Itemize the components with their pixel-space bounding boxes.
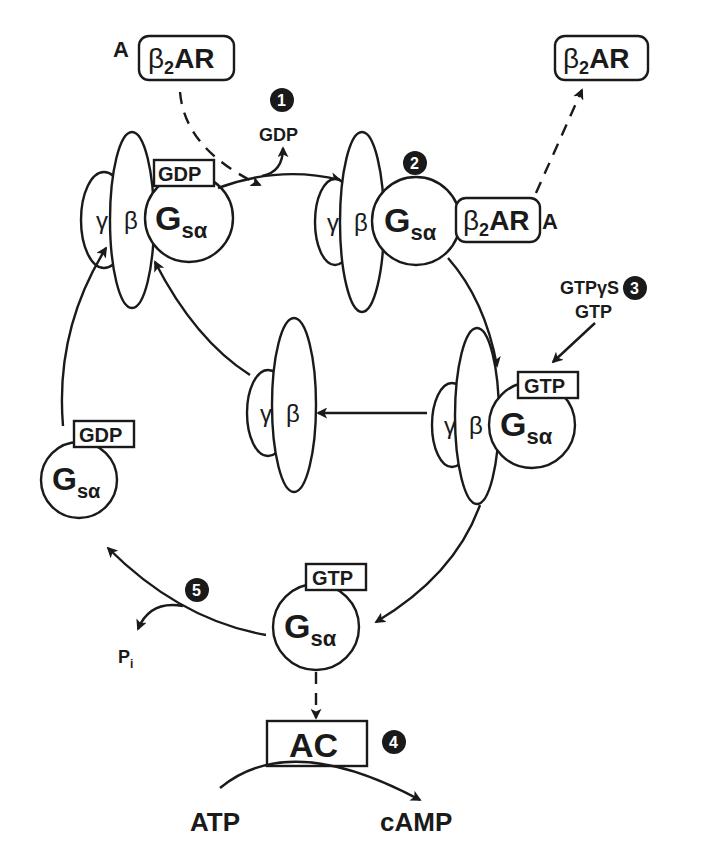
gamma-label: γ [260, 400, 272, 427]
step-1-badge: 1 [270, 88, 294, 112]
svg-text:5: 5 [192, 582, 201, 599]
gtp-binding-arrow [553, 323, 595, 362]
gtpgs-label: GTPγS [560, 278, 619, 298]
svg-text:1: 1 [277, 92, 286, 109]
beta-label: β [354, 209, 368, 236]
agonist-receptor-top-left: A β2AR [113, 36, 234, 80]
gsa-gdp-free: Gsα GDP [41, 421, 134, 518]
gamma-label: γ [444, 412, 456, 439]
gsa-gtp-free: Gsα GTP [273, 564, 366, 670]
gamma-label: γ [96, 207, 108, 234]
beta-label: β [124, 207, 138, 234]
heterotrimer-gtp: γ β Gsα GTP [432, 328, 578, 504]
free-beta-gamma: γ β [247, 318, 316, 492]
ac-label: AC [289, 726, 338, 764]
gtp-label: GTP [312, 567, 353, 589]
pi-label: Pi [118, 647, 133, 671]
step-5-badge: 5 [185, 578, 209, 602]
step-4-badge: 4 [382, 730, 406, 754]
beta-label: β [469, 412, 483, 439]
receptor-beta: β2AR [148, 43, 215, 78]
reassociation-arrow-gsa [62, 248, 106, 426]
receptor-label: β2AR [463, 205, 530, 240]
pi-release-arrow [138, 605, 183, 629]
step-3-badge: 3 [623, 276, 647, 300]
svg-text:3: 3 [630, 280, 639, 297]
atp-label: ATP [190, 807, 240, 837]
agonist-label: A [542, 209, 558, 234]
beta-label: β [286, 400, 300, 427]
reassociation-arrow-betagamma [155, 262, 250, 375]
heterotrimer-gdp: γ β Gsα GDP [81, 132, 233, 308]
agonist-label: A [113, 37, 129, 62]
atp-to-camp-arrow [220, 762, 420, 800]
adenylyl-cyclase: AC [267, 721, 367, 766]
receptor-release-dashed-arrow [536, 90, 582, 193]
activation-arrow [218, 174, 340, 188]
gdp-label: GDP [79, 424, 122, 446]
g-protein-cycle-diagram: A β2AR 1 GDP β2AR γ β Gsα GDP γ [0, 0, 704, 862]
gamma-label: γ [327, 209, 339, 236]
gtp-label: GTP [524, 375, 565, 397]
step-2-badge: 2 [403, 151, 427, 175]
svg-text:2: 2 [410, 155, 419, 172]
receptor-beta: β2AR [563, 43, 630, 78]
gdp-release-arrow [262, 148, 283, 176]
gtp-input-label: GTP [575, 302, 612, 322]
svg-text:4: 4 [389, 734, 398, 751]
receptor-top-right: β2AR [555, 36, 648, 80]
gdp-label: GDP [158, 163, 201, 185]
released-gdp-label: GDP [259, 125, 298, 145]
ternary-complex: γ β Gsα β2AR A [315, 132, 558, 312]
gsa-gtp-dissociation-arrow [376, 505, 480, 622]
camp-label: cAMP [380, 807, 452, 837]
